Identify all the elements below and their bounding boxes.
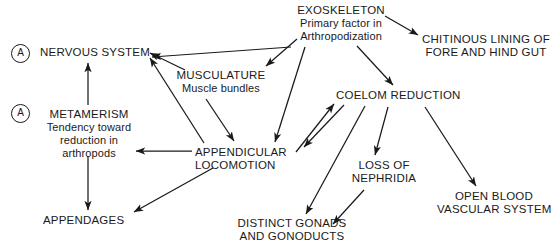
node-label: AND GONODUCTS	[235, 230, 349, 243]
node-label: CHITINOUS LINING OF	[421, 33, 551, 46]
node-appendicular-locomotion: APPENDICULAR LOCOMOTION	[195, 146, 295, 172]
edge-appendicular-to-appendages	[134, 168, 213, 212]
node-label: VASCULAR SYSTEM	[437, 203, 551, 216]
node-subline: Muscle bundles	[176, 82, 266, 95]
node-subline: arthropods	[36, 147, 142, 160]
node-label: NEPHRIDIA	[344, 172, 424, 185]
node-label: OPEN BLOOD	[437, 190, 551, 203]
node-label: EXOSKELETON	[285, 4, 397, 17]
node-distinct-gonads: DISTINCT GONADS AND GONODUCTS	[235, 217, 349, 243]
edge-coelom-to-loss-nephridia	[375, 107, 388, 155]
arthropodization-flow-diagram: A A NERVOUS SYSTEM METAMERISM Tendency t…	[0, 0, 553, 249]
node-subline: Primary factor in	[285, 17, 397, 30]
node-subline: Tendency toward	[36, 121, 142, 134]
tag-circle-a-nervous: A	[11, 44, 30, 63]
node-label: DISTINCT GONADS	[235, 217, 349, 230]
node-nervous-system: NERVOUS SYSTEM	[40, 46, 148, 59]
edge-musculature-to-appendicular	[206, 99, 234, 141]
node-label: APPENDAGES	[43, 214, 123, 227]
node-label: NERVOUS SYSTEM	[40, 46, 148, 59]
node-label: COELOM REDUCTION	[336, 89, 458, 102]
node-chitinous-lining: CHITINOUS LINING OF FORE AND HIND GUT	[421, 33, 551, 59]
edge-coelom-to-open-blood	[425, 107, 476, 186]
node-loss-of-nephridia: LOSS OF NEPHRIDIA	[344, 159, 424, 185]
edge-exoskeleton-to-musculature	[266, 39, 297, 66]
node-label: APPENDICULAR	[195, 146, 295, 159]
edge-exoskeleton-to-appendicular	[275, 47, 305, 142]
node-label: METAMERISM	[36, 108, 142, 121]
node-label: MUSCULATURE	[176, 69, 266, 82]
tag-circle-a-metamerism: A	[11, 104, 30, 123]
edge-exoskeleton-to-nervous-long	[152, 47, 291, 57]
node-subline: reduction in	[36, 134, 142, 147]
node-label: LOSS OF	[344, 159, 424, 172]
node-appendages: APPENDAGES	[43, 214, 123, 227]
node-coelom-reduction: COELOM REDUCTION	[336, 89, 458, 102]
node-open-blood-vascular: OPEN BLOOD VASCULAR SYSTEM	[437, 190, 551, 216]
edge-coelom-to-appendicular	[304, 105, 344, 147]
node-subline: Arthropodization	[285, 30, 397, 43]
node-metamerism: METAMERISM Tendency toward reduction in …	[36, 108, 142, 160]
edge-appendicular-to-coelom	[296, 104, 334, 152]
node-exoskeleton: EXOSKELETON Primary factor in Arthropodi…	[285, 4, 397, 43]
edge-exoskeleton-to-coelom	[357, 46, 393, 85]
node-label: LOCOMOTION	[195, 159, 295, 172]
node-label: FORE AND HIND GUT	[421, 46, 551, 59]
node-musculature: MUSCULATURE Muscle bundles	[176, 69, 266, 95]
